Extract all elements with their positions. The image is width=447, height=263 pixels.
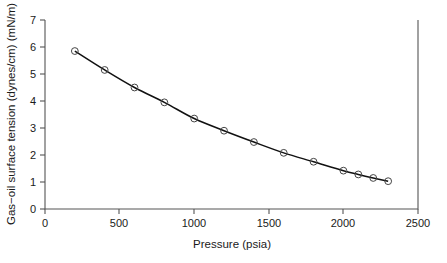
- chart-figure: 0 1 2 3 4 5 6 7 0 500 1000 1500 2000 250…: [0, 0, 447, 263]
- data-point-marker: [101, 67, 108, 74]
- data-point-marker: [161, 99, 168, 106]
- x-tick-label-2000: 2000: [331, 217, 355, 229]
- x-tick-label-0: 0: [42, 217, 48, 229]
- y-tick-label-7: 7: [30, 14, 36, 26]
- data-point-marker: [71, 48, 78, 55]
- data-point-marker: [385, 178, 392, 185]
- data-point-marker: [280, 149, 287, 156]
- data-point-marker: [191, 115, 198, 122]
- y-tick-label-5: 5: [30, 68, 36, 80]
- x-axis-title: Pressure (psia): [193, 238, 271, 250]
- y-tick-label-4: 4: [30, 95, 36, 107]
- data-point-marker: [131, 84, 138, 91]
- y-tick-label-3: 3: [30, 122, 36, 134]
- y-axis-title: Gas−oil surface tension (dynes/cm) (mN/m…: [5, 3, 17, 225]
- surface-tension-line-chart: 0 1 2 3 4 5 6 7 0 500 1000 1500 2000 250…: [0, 0, 447, 263]
- y-tick-label-0: 0: [30, 203, 36, 215]
- data-point-marker: [250, 139, 257, 146]
- y-tick-label-1: 1: [30, 176, 36, 188]
- data-point-marker: [221, 127, 228, 134]
- x-tick-label-500: 500: [110, 217, 128, 229]
- data-point-marker: [310, 158, 317, 165]
- data-point-marker: [340, 167, 347, 174]
- data-point-marker: [370, 175, 377, 182]
- x-tick-label-1500: 1500: [257, 217, 281, 229]
- data-point-marker: [355, 171, 362, 178]
- x-tick-label-2500: 2500: [406, 217, 430, 229]
- y-tick-label-2: 2: [30, 149, 36, 161]
- x-tick-label-1000: 1000: [182, 217, 206, 229]
- y-tick-label-6: 6: [30, 41, 36, 53]
